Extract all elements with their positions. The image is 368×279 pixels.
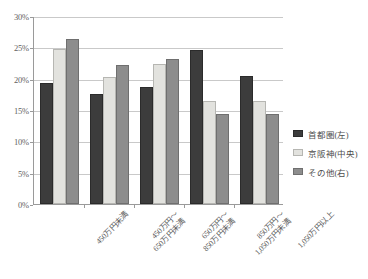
bar-group (240, 17, 279, 204)
bar (103, 77, 116, 204)
legend-swatch-icon (293, 168, 303, 175)
bar (90, 94, 103, 204)
x-axis-tick-label: 1,050万円以上 (295, 210, 336, 251)
bar-group (90, 17, 129, 204)
bar (40, 83, 53, 204)
x-axis-tick-label: 450万円～650万円未満 (144, 210, 188, 254)
bar-group (190, 17, 229, 204)
y-axis-tick-label: 25% (0, 43, 29, 53)
bar-chart: 0%5%10%15%20%25%30% 450万円未満450万円～650万円未満… (0, 0, 368, 279)
legend-swatch-icon (293, 149, 303, 156)
bar (166, 59, 179, 204)
chart-legend: 首都圏(左)京阪神(中央)その他(右) (293, 124, 368, 181)
legend-label: 首都圏(左) (308, 128, 348, 140)
x-axis-tick-mark (84, 204, 85, 208)
legend-item[interactable]: 首都圏(左) (293, 124, 368, 143)
x-axis-tick-label: 850万円～1,050万円未満 (245, 210, 293, 258)
y-axis-tick-label: 0% (0, 200, 29, 210)
bar (240, 76, 253, 204)
y-axis-tick-label: 30% (0, 12, 29, 22)
bar (53, 49, 66, 204)
bar (66, 39, 79, 204)
y-axis-tick-label: 5% (0, 169, 29, 179)
x-axis-tick-mark (134, 204, 135, 208)
bar (216, 114, 229, 204)
legend-label: その他(右) (308, 166, 348, 178)
x-axis-tick-mark (184, 204, 185, 208)
y-axis-tick-label: 15% (0, 106, 29, 116)
y-axis-tick-label: 20% (0, 75, 29, 85)
legend-label: 京阪神(中央) (308, 147, 357, 159)
x-axis-tick-mark (234, 204, 235, 208)
bar (190, 50, 203, 204)
bar-group (140, 17, 179, 204)
bar-group (40, 17, 79, 204)
legend-item[interactable]: 京阪神(中央) (293, 143, 368, 162)
bar (116, 65, 129, 204)
x-axis-tick-label: 650万円～850万円未満 (194, 210, 238, 254)
y-axis-tick-label: 10% (0, 137, 29, 147)
bar (140, 87, 153, 204)
plot-area (33, 17, 283, 205)
legend-swatch-icon (293, 130, 303, 137)
bar (266, 114, 279, 204)
y-axis-tick-mark (30, 205, 33, 206)
bar (253, 101, 266, 204)
bar (153, 64, 166, 204)
bar (203, 101, 216, 204)
legend-item[interactable]: その他(右) (293, 162, 368, 181)
x-axis-tick-label: 450万円未満 (94, 210, 131, 247)
